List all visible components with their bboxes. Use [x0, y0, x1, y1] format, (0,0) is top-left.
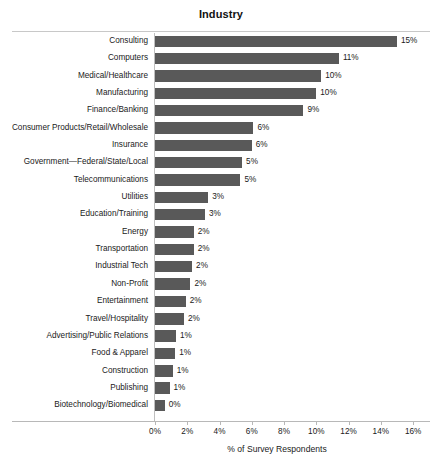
- bar-value-label: 2%: [194, 278, 206, 289]
- category-label: Biotechnology/Biomedical: [54, 399, 148, 410]
- bar: [155, 400, 165, 412]
- bar: [155, 53, 339, 65]
- bar-row: Utilities3%: [0, 189, 442, 206]
- bar-row: Transportation2%: [0, 241, 442, 258]
- bar-row: Government—Federal/State/Local5%: [0, 154, 442, 171]
- bar: [155, 261, 192, 273]
- x-axis-tick: [413, 421, 414, 425]
- bar-value-label: 3%: [212, 191, 224, 202]
- category-label: Utilities: [122, 191, 148, 202]
- bar: [155, 226, 194, 238]
- bar-value-label: 2%: [190, 295, 202, 306]
- bar: [155, 105, 303, 117]
- x-axis-tick-label: 14%: [373, 426, 389, 437]
- x-axis-tick: [381, 421, 382, 425]
- bar: [155, 313, 184, 325]
- bar-row: Construction1%: [0, 363, 442, 380]
- bar-row: Education/Training3%: [0, 206, 442, 223]
- x-axis-tick-label: 8%: [278, 426, 290, 437]
- x-axis-tick-label: 2%: [181, 426, 193, 437]
- category-label: Non-Profit: [111, 278, 148, 289]
- bar: [155, 278, 190, 290]
- x-axis-tick: [155, 421, 156, 425]
- x-axis-tick-label: 12%: [340, 426, 356, 437]
- bar-value-label: 9%: [307, 104, 319, 115]
- category-label: Consumer Products/Retail/Wholesale: [12, 122, 148, 133]
- top-rule: [12, 31, 430, 32]
- bar-value-label: 5%: [244, 174, 256, 185]
- category-label: Energy: [122, 226, 148, 237]
- bar-row: Finance/Banking9%: [0, 102, 442, 119]
- bar-value-label: 1%: [179, 347, 191, 358]
- x-axis-tick: [349, 421, 350, 425]
- bar-row: Consulting15%: [0, 33, 442, 50]
- category-label: Education/Training: [80, 208, 148, 219]
- plot-area: Consulting15%Computers11%Medical/Healthc…: [0, 33, 442, 421]
- category-label: Government—Federal/State/Local: [24, 156, 148, 167]
- bar: [155, 157, 242, 169]
- x-axis-tick-label: 10%: [308, 426, 324, 437]
- category-label: Consulting: [109, 35, 148, 46]
- bar-row: Industrial Tech2%: [0, 258, 442, 275]
- x-axis-tick: [252, 421, 253, 425]
- bar-row: Biotechnology/Biomedical0%: [0, 397, 442, 414]
- bar-row: Travel/Hospitality2%: [0, 311, 442, 328]
- bar-row: Insurance6%: [0, 137, 442, 154]
- bar-row: Non-Profit2%: [0, 276, 442, 293]
- x-axis: % of Survey Respondents 0%2%4%6%8%10%12%…: [0, 421, 442, 467]
- x-axis-tick: [316, 421, 317, 425]
- bar-value-label: 2%: [188, 313, 200, 324]
- bar: [155, 244, 194, 256]
- x-axis-tick: [284, 421, 285, 425]
- bar-row: Advertising/Public Relations1%: [0, 328, 442, 345]
- chart-title: Industry: [0, 8, 442, 20]
- bar: [155, 192, 208, 204]
- category-label: Entertainment: [97, 295, 148, 306]
- bar-value-label: 10%: [325, 70, 341, 81]
- bar-row: Food & Apparel1%: [0, 345, 442, 362]
- x-axis-title: % of Survey Respondents: [0, 444, 442, 454]
- bar-value-label: 3%: [209, 208, 221, 219]
- bar-row: Consumer Products/Retail/Wholesale6%: [0, 120, 442, 137]
- category-label: Publishing: [110, 382, 148, 393]
- bar-value-label: 2%: [198, 243, 210, 254]
- x-axis-tick-label: 4%: [214, 426, 226, 437]
- bar-value-label: 5%: [246, 156, 258, 167]
- bar-row: Computers11%: [0, 50, 442, 67]
- bar-row: Entertainment2%: [0, 293, 442, 310]
- bar-row: Energy2%: [0, 224, 442, 241]
- industry-bar-chart: Industry Consulting15%Computers11%Medica…: [0, 0, 442, 467]
- category-label: Transportation: [96, 243, 149, 254]
- x-axis-tick: [187, 421, 188, 425]
- x-axis-title-text: % of Survey Respondents: [115, 444, 326, 454]
- bar-value-label: 0%: [169, 399, 181, 410]
- category-label: Finance/Banking: [87, 104, 148, 115]
- category-label: Construction: [102, 365, 148, 376]
- x-axis-tick-label: 0%: [149, 426, 161, 437]
- category-label: Insurance: [112, 139, 148, 150]
- bar: [155, 365, 173, 377]
- bar: [155, 88, 316, 100]
- bar-value-label: 11%: [343, 52, 359, 63]
- x-axis-tick-label: 6%: [246, 426, 258, 437]
- bar-value-label: 1%: [180, 330, 192, 341]
- bar-value-label: 10%: [320, 87, 336, 98]
- bar-value-label: 2%: [198, 226, 210, 237]
- bar: [155, 348, 175, 360]
- category-label: Food & Apparel: [92, 347, 148, 358]
- bar-rows: Consulting15%Computers11%Medical/Healthc…: [0, 33, 442, 415]
- bar: [155, 70, 321, 82]
- bar-value-label: 6%: [256, 139, 268, 150]
- bar-value-label: 1%: [177, 365, 189, 376]
- bar: [155, 330, 176, 342]
- bar: [155, 140, 252, 152]
- bar-row: Medical/Healthcare10%: [0, 68, 442, 85]
- bar: [155, 36, 397, 48]
- bar: [155, 122, 253, 134]
- category-label: Advertising/Public Relations: [47, 330, 148, 341]
- category-label: Manufacturing: [96, 87, 148, 98]
- bar: [155, 209, 205, 221]
- bar-value-label: 1%: [174, 382, 186, 393]
- category-label: Industrial Tech: [95, 260, 148, 271]
- bar: [155, 382, 170, 394]
